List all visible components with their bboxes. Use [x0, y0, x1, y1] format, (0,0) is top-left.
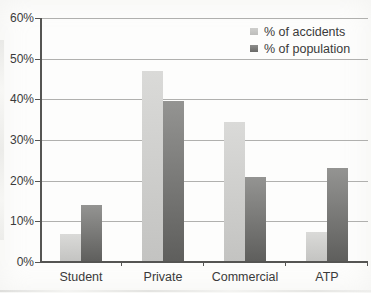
bar-atp-accidents — [306, 232, 327, 263]
gridline-30 — [40, 140, 368, 141]
y-tick-0% — [35, 262, 40, 263]
legend-label: % of population — [264, 42, 350, 56]
x-axis-line — [40, 261, 368, 263]
category-label-student: Student — [40, 270, 122, 284]
y-tick-label-20%: 20% — [0, 175, 34, 187]
y-tick-label-10%: 10% — [0, 215, 34, 227]
gridline-50 — [40, 59, 368, 60]
x-tick-3 — [285, 262, 286, 266]
category-label-commercial: Commercial — [204, 270, 286, 284]
y-tick-50% — [35, 59, 40, 60]
y-tick-10% — [35, 221, 40, 222]
legend: % of accidents% of population — [250, 23, 350, 57]
y-tick-label-60%: 60% — [0, 12, 34, 24]
y-tick-label-30%: 30% — [0, 134, 34, 146]
category-label-private: Private — [122, 270, 204, 284]
bar-student-accidents — [60, 234, 81, 262]
bar-student-population — [81, 205, 102, 262]
gridline-20 — [40, 181, 368, 182]
y-tick-label-50%: 50% — [0, 53, 34, 65]
y-tick-60% — [35, 18, 40, 19]
x-tick-1 — [121, 262, 122, 266]
legend-item-population: % of population — [250, 40, 350, 57]
legend-marker-icon — [250, 45, 258, 52]
y-tick-30% — [35, 140, 40, 141]
scan-artifact-bottom-edge — [0, 290, 371, 292]
y-tick-label-0%: 0% — [0, 256, 34, 268]
legend-marker-icon — [250, 28, 258, 35]
accidents-vs-population-bar-chart: 0%10%20%30%40%50%60% StudentPrivateComme… — [0, 0, 371, 293]
y-axis-line — [40, 18, 42, 262]
y-tick-label-40%: 40% — [0, 93, 34, 105]
y-tick-20% — [35, 181, 40, 182]
x-tick-2 — [203, 262, 204, 266]
bar-atp-population — [327, 168, 348, 262]
gridline-40 — [40, 99, 368, 100]
y-tick-40% — [35, 99, 40, 100]
bar-private-accidents — [142, 71, 163, 262]
x-tick-4 — [367, 262, 368, 266]
category-label-atp: ATP — [286, 270, 368, 284]
legend-label: % of accidents — [264, 25, 345, 39]
bar-private-population — [163, 101, 184, 262]
bar-commercial-population — [245, 177, 266, 262]
bar-commercial-accidents — [224, 122, 245, 262]
legend-item-accidents: % of accidents — [250, 23, 350, 40]
gridline-60 — [40, 18, 368, 19]
